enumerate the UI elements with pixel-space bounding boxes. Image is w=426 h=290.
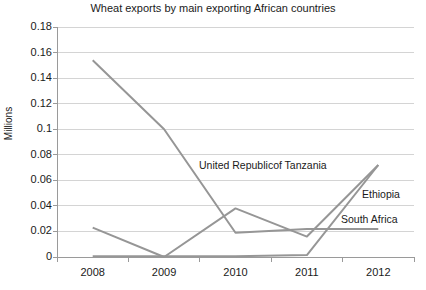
x-tick-label: 2009 — [152, 266, 176, 278]
x-tick-label: 2012 — [366, 266, 390, 278]
x-axis-ticks — [57, 257, 414, 262]
line-chart: Wheat exports by main exporting African … — [0, 0, 426, 290]
series-label: United Republicof Tanzania — [199, 159, 327, 171]
x-tick-label: 2010 — [223, 266, 247, 278]
series-label: South Africa — [341, 213, 398, 225]
plot-area — [0, 0, 426, 290]
x-tick-label: 2011 — [295, 266, 319, 278]
series-line-1 — [93, 165, 379, 257]
series-label: Ethiopia — [362, 188, 400, 200]
x-tick-label: 2008 — [80, 266, 104, 278]
series-line-2 — [93, 165, 379, 256]
